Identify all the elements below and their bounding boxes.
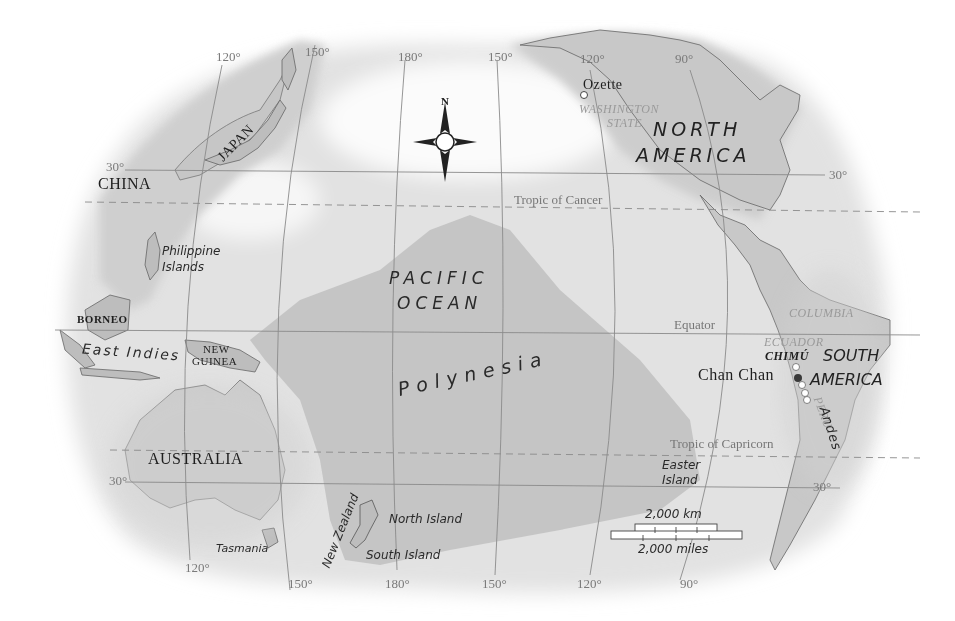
borneo-label: BORNEO bbox=[77, 314, 128, 325]
philippine-label-line2: Islands bbox=[162, 261, 204, 273]
degree-label: 30° bbox=[106, 160, 124, 173]
degree-label: 90° bbox=[675, 52, 693, 65]
pacific-map: N 120° 150° 180° 150° 120° 90° 30° 30° 3… bbox=[0, 0, 955, 621]
degree-label: 180° bbox=[398, 50, 423, 63]
degree-label: 30° bbox=[109, 474, 127, 487]
columbia-label: COLUMBIA bbox=[789, 307, 854, 319]
degree-label: 150° bbox=[305, 45, 330, 58]
tropic-of-cancer-label: Tropic of Cancer bbox=[514, 193, 602, 206]
degree-label: 90° bbox=[680, 577, 698, 590]
degree-label: 120° bbox=[185, 561, 210, 574]
chan-chan-dot bbox=[794, 374, 802, 382]
pacific-ocean-label-line2: OCEAN bbox=[397, 295, 482, 312]
equator-label: Equator bbox=[674, 318, 715, 331]
degree-label: 150° bbox=[482, 577, 507, 590]
compass-north-label: N bbox=[441, 96, 449, 107]
degree-label: 150° bbox=[288, 577, 313, 590]
new-guinea-label-line2: GUINEA bbox=[192, 356, 237, 367]
degree-label: 120° bbox=[216, 50, 241, 63]
north-island-label: North Island bbox=[389, 513, 462, 525]
scale-km-label: 2,000 km bbox=[645, 508, 702, 520]
washington-state-label-line1: WASHINGTON bbox=[579, 103, 659, 115]
chan-chan-label: Chan Chan bbox=[698, 367, 774, 383]
ecuador-label: ECUADOR bbox=[764, 336, 824, 348]
degree-label: 150° bbox=[488, 50, 513, 63]
easter-island-label-line1: Easter bbox=[662, 459, 700, 471]
philippine-label-line1: Philippine bbox=[162, 245, 220, 257]
south-america-label-line1: SOUTH bbox=[823, 348, 879, 364]
degree-label: 180° bbox=[385, 577, 410, 590]
south-america-label-line2: AMERICA bbox=[810, 372, 883, 388]
scale-miles-label: 2,000 miles bbox=[638, 543, 708, 555]
degree-label: 30° bbox=[829, 168, 847, 181]
ozette-label: Ozette bbox=[583, 78, 623, 92]
easter-island-label-line2: Island bbox=[662, 474, 698, 486]
australia-label: AUSTRALIA bbox=[148, 451, 243, 467]
north-america-label-line2: AMERICA bbox=[636, 146, 750, 165]
washington-state-label-line2: STATE bbox=[607, 117, 642, 129]
degree-label: 30° bbox=[813, 480, 831, 493]
ozette-dot bbox=[581, 92, 588, 99]
chimu-label: CHIMÚ bbox=[765, 350, 809, 362]
china-label: CHINA bbox=[98, 176, 151, 192]
north-america-label-line1: NORTH bbox=[653, 120, 741, 139]
new-guinea-label-line1: NEW bbox=[203, 344, 230, 355]
south-island-label: South Island bbox=[366, 549, 440, 561]
tropic-of-capricorn-label: Tropic of Capricorn bbox=[670, 437, 774, 450]
degree-label: 120° bbox=[577, 577, 602, 590]
degree-label: 120° bbox=[580, 52, 605, 65]
pacific-ocean-label-line1: PACIFIC bbox=[389, 270, 489, 287]
tasmania-label: Tasmania bbox=[216, 543, 268, 554]
